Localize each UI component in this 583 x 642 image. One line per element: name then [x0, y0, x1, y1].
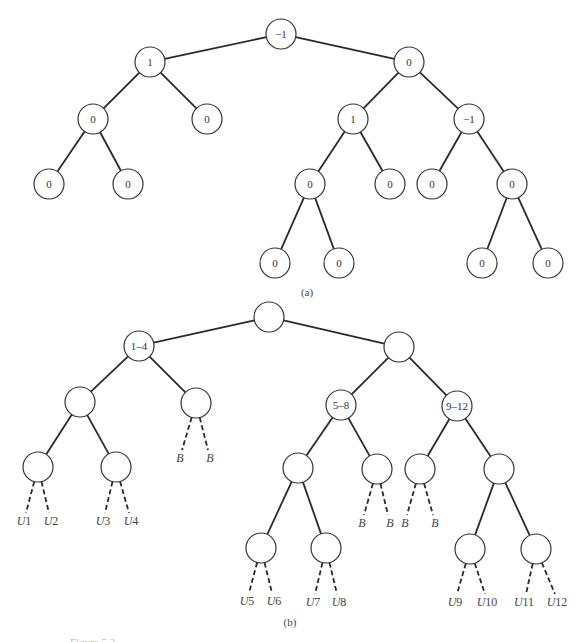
leaf-label: U10: [477, 595, 498, 609]
tree-edge: [348, 418, 369, 456]
leaf-label: U7: [306, 595, 321, 609]
dashed-edge: [105, 482, 113, 513]
leaf-label: U5: [240, 594, 255, 608]
tree-edge: [477, 132, 503, 172]
dashed-edge: [265, 563, 272, 593]
tree-node: 9–12: [442, 391, 472, 421]
dashed-edge: [424, 483, 433, 515]
tree-node: 0: [497, 169, 527, 199]
node-label: 0: [307, 178, 313, 190]
tree-node: [362, 454, 392, 484]
node-label: 1: [147, 56, 153, 68]
tree-edge: [296, 37, 395, 59]
tree-edge: [91, 356, 128, 391]
tree-node: 1: [338, 104, 368, 134]
node-label: 1: [350, 113, 356, 125]
tree-edge: [100, 132, 121, 171]
node-label: 0: [204, 113, 210, 125]
tree-node: [254, 302, 284, 332]
leaf-label: U11: [514, 595, 534, 609]
dashed-edge: [364, 483, 373, 515]
tree-edge: [352, 358, 389, 395]
tree-edge: [420, 72, 458, 108]
dashed-edge: [315, 563, 323, 594]
leaf-label: B: [401, 516, 409, 530]
leaf-label: U9: [448, 595, 463, 609]
tree-edge: [428, 419, 450, 456]
tree-edge: [360, 132, 382, 171]
tree-node: 0: [533, 248, 563, 278]
dashed-edge: [200, 418, 208, 450]
tree-edge: [46, 415, 72, 455]
tree-node: 0: [375, 169, 405, 199]
tree-edge: [364, 73, 399, 109]
leaf-label: U12: [547, 595, 568, 609]
leaf-label: U1: [17, 514, 32, 528]
panel-a-caption: (a): [301, 286, 314, 299]
tree-node: 0: [394, 47, 424, 77]
node-label: 0: [90, 113, 96, 125]
leaf-label: B: [206, 451, 214, 465]
tree-edge: [87, 415, 108, 454]
node-label: 0: [387, 178, 393, 190]
panel-b-range-tree: 1–45–89–12 U1U2U3U4BBBBBBU5U6U7U8U9U10U1…: [17, 302, 568, 629]
tree-node: [283, 453, 313, 483]
tree-node: 5–8: [326, 390, 356, 420]
dashed-edge: [41, 482, 49, 513]
dashed-edge: [182, 417, 192, 450]
tree-edge: [104, 73, 140, 109]
tree-node: [484, 454, 514, 484]
tree-edge: [318, 132, 344, 172]
node-label: 0: [406, 56, 412, 68]
node-label: 0: [545, 257, 551, 269]
tree-node: 0: [78, 104, 108, 134]
tree-node: [384, 332, 414, 362]
dashed-edge: [475, 563, 485, 594]
tree-node: 0: [295, 169, 325, 199]
tree-edge: [284, 320, 385, 343]
tree-node: 1: [135, 47, 165, 77]
node-label: 0: [479, 257, 485, 269]
tree-edge: [410, 358, 447, 396]
node-label: 0: [272, 257, 278, 269]
tree-node: −1: [266, 19, 296, 49]
tree-diagram: −110001−10000000000 (a) 1–45–89–12 U1U2U…: [0, 0, 583, 642]
tree-node: 0: [417, 169, 447, 199]
dashed-edge: [380, 484, 388, 515]
tree-node: 0: [34, 169, 64, 199]
tree-node: [181, 388, 211, 418]
dashed-edge: [120, 481, 129, 513]
tree-node: 0: [260, 248, 290, 278]
node-label: 5–8: [333, 399, 350, 411]
tree-edge: [518, 198, 542, 250]
tree-edge: [306, 417, 332, 455]
figure-caption-partial: Figure 5.2: [70, 637, 190, 642]
node-label: 0: [125, 178, 131, 190]
tree-node: [311, 533, 341, 563]
nodes: −110001−10000000000: [34, 19, 563, 278]
leaf-label: B: [386, 516, 394, 530]
tree-edge: [439, 132, 461, 171]
node-label: 0: [46, 178, 52, 190]
dashed-edge: [407, 483, 416, 515]
node-label: 0: [509, 178, 515, 190]
tree-node: [521, 534, 551, 564]
panel-b-caption: (b): [284, 616, 297, 629]
tree-node: 1–4: [124, 331, 154, 361]
tree-node: 0: [324, 248, 354, 278]
node-label: −1: [275, 28, 287, 40]
node-label: 9–12: [446, 400, 468, 412]
dashed-edge: [457, 563, 466, 594]
tree-edge: [315, 198, 334, 249]
tree-edge: [475, 483, 494, 535]
tree-edge: [165, 37, 267, 59]
tree-node: [455, 534, 485, 564]
edges: [57, 37, 541, 249]
leaf-label: U8: [332, 595, 347, 609]
tree-edge: [505, 483, 529, 536]
dashed-edge: [526, 564, 533, 594]
node-label: 0: [336, 257, 342, 269]
tree-edge: [303, 482, 321, 534]
leaf-label: B: [431, 516, 439, 530]
tree-edge: [150, 357, 186, 393]
